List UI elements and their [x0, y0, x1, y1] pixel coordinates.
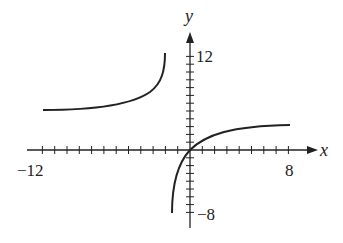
y-ticks: [186, 56, 194, 212]
y-max-label: 12: [196, 47, 213, 66]
left-branch-curve: [43, 53, 165, 110]
y-min-label: −8: [197, 205, 215, 224]
x-max-label: 8: [285, 161, 294, 180]
y-axis-label: y: [183, 6, 193, 26]
x-min-label: −12: [17, 161, 44, 180]
graph: x y −12 8 12 −8: [0, 0, 343, 243]
y-axis-arrow-icon: [186, 32, 194, 43]
x-ticks: [42, 146, 288, 154]
x-axis-arrow-icon: [307, 146, 318, 154]
x-axis-label: x: [319, 140, 328, 160]
